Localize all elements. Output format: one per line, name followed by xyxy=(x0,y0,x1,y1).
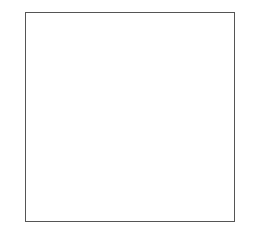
knitting-chart-grid xyxy=(25,12,235,222)
